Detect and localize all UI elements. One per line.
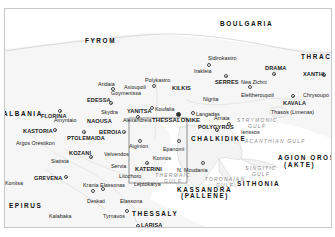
city-label-katerini[interactable]: KATERINI — [135, 166, 162, 172]
town-label-chrysoupoli[interactable]: Chrysoupo — [303, 92, 329, 98]
town-marker — [207, 63, 211, 67]
city-label-naousa[interactable]: NAOUSA — [87, 118, 112, 124]
town-label-irakleia[interactable]: Irakleia — [194, 68, 211, 74]
town-marker — [138, 139, 142, 143]
gulf-label-toronaian: TORONAIAN GULF — [203, 177, 247, 188]
map-frame: FYROM BOULGARIA ALBANIA THRACE CHALKIDIK… — [4, 8, 332, 228]
town-label-epanomi[interactable]: Epanomi — [163, 146, 184, 152]
city-marker — [145, 161, 149, 165]
town-label-nea-zichni[interactable]: Nea Zichni — [241, 79, 267, 85]
region-label-thrace: THRACE — [301, 54, 332, 60]
region-label-thessaly: THESSALY — [132, 211, 178, 217]
town-marker — [125, 209, 129, 213]
town-label-kalabaka[interactable]: Kalabaka — [49, 213, 71, 219]
country-label-albania: ALBANIA — [4, 111, 43, 117]
town-label-alexandreia[interactable]: Alexandreia — [123, 117, 151, 123]
town-marker — [201, 161, 205, 165]
city-label-kavala[interactable]: KAVALA — [283, 100, 306, 106]
town-marker — [177, 139, 181, 143]
town-label-n-moudania[interactable]: N. Moudania — [177, 167, 208, 173]
region-label-akte: (AKTE) — [284, 162, 315, 168]
town-marker — [101, 187, 105, 191]
city-marker — [272, 72, 276, 76]
city-marker — [122, 130, 126, 134]
city-label-kozani[interactable]: KOZANI — [69, 150, 91, 156]
town-label-leptokarya[interactable]: Leptokarya — [134, 181, 161, 187]
city-label-grevena[interactable]: GREVENA — [34, 175, 62, 181]
city-marker — [224, 74, 228, 78]
city-label-drama[interactable]: DRAMA — [265, 65, 286, 71]
town-label-siatista[interactable]: Siatista — [51, 158, 69, 164]
city-label-kilkis[interactable]: KILKIS — [172, 85, 191, 91]
city-marker — [82, 130, 86, 134]
town-label-thasos[interactable]: Thasos (Limenas) — [271, 109, 314, 115]
town-label-velvendos[interactable]: Velvendos — [104, 151, 129, 157]
city-label-thessalonike[interactable]: THESSALONIKE — [152, 117, 200, 123]
gulf-label-acanthian: ACANTHIAN GULF — [245, 139, 305, 145]
town-label-konitsa[interactable]: Konitsa — [5, 180, 23, 186]
town-label-servia[interactable]: Servia — [111, 163, 126, 169]
city-marker — [53, 128, 57, 132]
town-label-goymenissa[interactable]: Goymenissa — [111, 90, 141, 96]
city-label-edessa[interactable]: EDESSA — [87, 97, 111, 103]
city-label-larisa[interactable]: LARISA — [141, 222, 162, 228]
town-label-konnos[interactable]: Konnos — [153, 155, 171, 161]
city-label-ptolemaida[interactable]: PTOLEMAIDA — [67, 135, 105, 141]
town-label-amyntaio[interactable]: Amyntaio — [54, 117, 76, 123]
region-label-pallene: (PALLENE) — [181, 193, 229, 199]
city-label-xanthi[interactable]: XANTHI — [303, 71, 324, 77]
region-label-epirus: EPIRUS — [9, 203, 42, 209]
town-label-skydra[interactable]: Skydra — [101, 109, 118, 115]
region-label-chalkidike: CHALKIDIKE — [191, 136, 246, 142]
town-marker — [152, 84, 156, 88]
town-label-eleftheroupoli[interactable]: Eleftheroupoli — [241, 92, 274, 98]
town-label-koufalia[interactable]: Koufalia — [155, 106, 174, 112]
town-marker — [248, 85, 252, 89]
city-label-kastoria[interactable]: KASTORIA — [23, 128, 53, 134]
town-label-aiginion[interactable]: Aiginion — [129, 143, 148, 149]
town-label-argos-orestikon[interactable]: Argos Orestikon — [16, 140, 55, 146]
town-marker — [150, 106, 154, 110]
city-label-yanitsa[interactable]: YANITSA — [127, 108, 152, 114]
country-label-boulgaria: BOULGARIA — [220, 21, 273, 27]
town-label-elassona[interactable]: Elassona — [120, 198, 142, 204]
gulf-label-singitic: SINGITIC GULF — [243, 166, 279, 177]
city-label-serres[interactable]: SERRES — [215, 79, 239, 85]
city-marker — [291, 94, 295, 98]
town-label-litochoro[interactable]: Litochoro — [119, 173, 141, 179]
city-marker — [64, 175, 68, 179]
town-label-arnaia[interactable]: Arnaia — [214, 115, 230, 121]
country-label-fyrom: FYROM — [85, 38, 116, 44]
town-marker — [91, 189, 95, 193]
town-label-deskati[interactable]: Deskati — [87, 198, 105, 204]
town-label-sidirokastro[interactable]: Sidirokastro — [208, 55, 236, 61]
town-label-tyrnavos[interactable]: Tyrnavos — [103, 213, 125, 219]
city-marker — [136, 224, 140, 228]
town-label-ierissos[interactable]: Ierissos — [241, 129, 260, 135]
town-marker — [191, 111, 195, 115]
town-marker — [227, 122, 231, 126]
town-label-polykastro[interactable]: Polykastro — [145, 77, 170, 83]
town-label-nigrita[interactable]: Nigrita — [203, 96, 219, 102]
gulf-label-strymonic: STRYMONIC GULF — [237, 118, 277, 129]
